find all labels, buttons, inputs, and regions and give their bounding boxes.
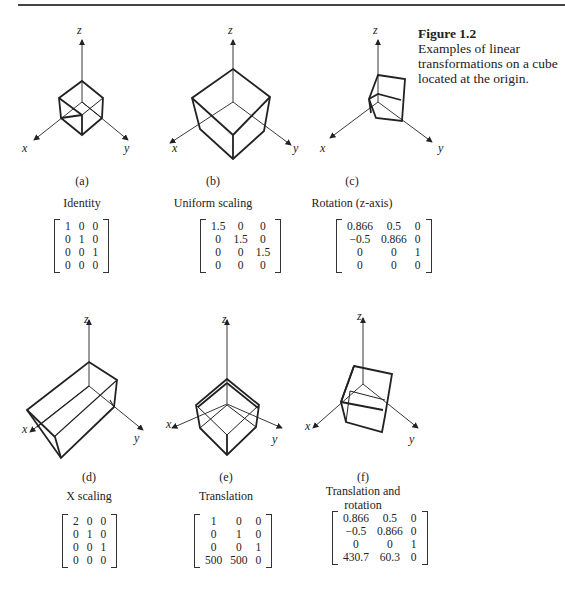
matrix-row: 010 (69, 528, 110, 541)
matrix-cell: 0 (226, 515, 251, 528)
matrix-row: 010 (201, 528, 265, 541)
matrix-row: 0.8660.50 (339, 512, 421, 525)
matrix-cell: 0 (89, 220, 103, 233)
matrix-cell: 1 (201, 515, 226, 528)
matrix-cell: 0 (69, 554, 83, 567)
matrix-cell: 0 (343, 246, 377, 259)
matrix-cell: −0.5 (343, 233, 377, 246)
matrix-cell: 0 (252, 528, 266, 541)
svg-text:z: z (83, 312, 89, 326)
svg-text:z: z (221, 312, 227, 326)
matrix-row: 000 (61, 259, 102, 272)
matrix-cell: 0 (407, 525, 421, 538)
matrix-cell: 0 (252, 220, 274, 233)
svg-text:x: x (165, 417, 172, 431)
svg-text:y: y (292, 141, 299, 155)
matrix-cell: 0 (343, 259, 377, 272)
svg-text:y: y (408, 432, 415, 446)
matrix-row: 000 (69, 554, 110, 567)
matrix-cell: 1 (89, 246, 103, 259)
matrix-row: 100 (61, 220, 102, 233)
matrix-row: 001 (201, 541, 265, 554)
panel-b-label: (b) (183, 174, 243, 189)
panel-e-label: (e) (196, 470, 256, 485)
matrix-row: 430.760.30 (339, 551, 421, 564)
svg-text:z: z (76, 23, 82, 37)
matrix-cell: 0 (229, 220, 251, 233)
svg-text:x: x (21, 141, 28, 155)
svg-text:x: x (171, 141, 178, 155)
matrix-cell: 0 (97, 554, 111, 567)
panel-a-cube-diagram: z x y (21, 23, 130, 155)
panel-a-title: Identity (12, 196, 152, 210)
matrix-row: 5005000 (201, 554, 265, 567)
panel-f-matrix: 0.8660.50−0.50.8660001430.760.30 (332, 511, 428, 565)
matrix-cell: 1 (83, 528, 97, 541)
matrix-row: 001 (61, 246, 102, 259)
matrix-cell: 0 (69, 541, 83, 554)
matrix-row: 001 (343, 246, 425, 259)
panel-b-title: Uniform scaling (143, 196, 283, 210)
matrix-cell: 1.5 (207, 220, 229, 233)
panel-d-matrix: 200010001000 (62, 514, 117, 568)
matrix-cell: 0 (252, 515, 266, 528)
matrix-row: 200 (69, 515, 110, 528)
matrix-cell: 0.866 (339, 512, 373, 525)
panel-d-box-diagram: z x y (21, 312, 143, 458)
matrix-cell: 0 (373, 538, 407, 551)
matrix-cell: 0 (83, 541, 97, 554)
matrix-cell: 0.5 (377, 220, 411, 233)
matrix-cell: 0.5 (373, 512, 407, 525)
matrix-row: −0.50.8660 (339, 525, 421, 538)
matrix-cell: 1.5 (229, 233, 251, 246)
matrix-cell: 0 (207, 246, 229, 259)
matrix-cell: 500 (201, 554, 226, 567)
matrix-cell: 1 (411, 246, 425, 259)
panel-e-matrix: 1000100015005000 (194, 514, 272, 568)
matrix-cell: 0 (69, 528, 83, 541)
matrix-cell: 0 (252, 259, 274, 272)
matrix-cell: 0 (226, 541, 251, 554)
matrix-cell: 1 (226, 528, 251, 541)
matrix-row: 01.50 (207, 233, 274, 246)
matrix-cell: 2 (69, 515, 83, 528)
matrix-cell: 0.866 (373, 525, 407, 538)
matrix-cell: 0 (201, 528, 226, 541)
matrix-cell: 0 (207, 259, 229, 272)
matrix-cell: 0 (407, 512, 421, 525)
panel-a-label: (a) (52, 174, 112, 189)
svg-text:x: x (319, 141, 326, 155)
panel-f-cube-diagram: z x y (304, 309, 418, 446)
matrix-cell: 0 (75, 246, 89, 259)
panel-e-title: Translation (156, 489, 296, 503)
matrix-row: −0.50.8660 (343, 233, 425, 246)
matrix-row: 100 (201, 515, 265, 528)
matrix-cell: 1.5 (252, 246, 274, 259)
matrix-cell: 0 (75, 259, 89, 272)
panel-d-label: (d) (59, 470, 119, 485)
panel-b-matrix: 1.50001.50001.5000 (200, 219, 281, 273)
svg-text:y: y (123, 141, 130, 155)
svg-text:z: z (356, 309, 362, 323)
matrix-cell: 0 (89, 233, 103, 246)
matrix-row: 001 (69, 541, 110, 554)
svg-text:y: y (133, 431, 140, 445)
panel-f-title: Translation and rotation (323, 484, 403, 512)
matrix-row: 010 (61, 233, 102, 246)
matrix-cell: 0 (61, 246, 75, 259)
panel-d-title: X scaling (19, 489, 159, 503)
matrix-cell: 1 (252, 541, 266, 554)
matrix-row: 001 (339, 538, 421, 551)
matrix-cell: 0.866 (343, 220, 377, 233)
matrix-cell: 1 (407, 538, 421, 551)
svg-text:z: z (372, 23, 378, 37)
matrix-cell: 0 (97, 515, 111, 528)
matrix-cell: 0 (377, 259, 411, 272)
panel-a-matrix: 100010001000 (54, 219, 109, 273)
panel-c-cube-diagram: z x y (319, 23, 444, 155)
matrix-cell: 0 (339, 538, 373, 551)
matrix-cell: 0 (229, 246, 251, 259)
figure-diagrams: z x y z x y z x (0, 0, 565, 601)
matrix-cell: 0 (89, 259, 103, 272)
matrix-cell: 60.3 (373, 551, 407, 564)
